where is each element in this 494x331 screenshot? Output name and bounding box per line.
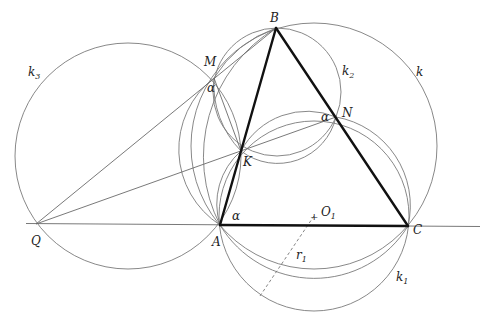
circle-k3 xyxy=(15,43,241,269)
label-B: B xyxy=(269,11,279,25)
side-BC xyxy=(276,28,408,226)
circle-k2 xyxy=(213,28,341,156)
label-M: M xyxy=(203,55,217,69)
arc-A-C xyxy=(220,225,408,278)
geometry-diagram: + B M N K A C Q k3 k2 k k1 O1 r1 α α α xyxy=(0,0,494,331)
label-A: A xyxy=(211,235,221,249)
label-alpha-A: α xyxy=(232,209,240,223)
label-k1: k1 xyxy=(396,270,408,286)
label-k3: k3 xyxy=(28,65,40,81)
label-alpha-M: α xyxy=(207,81,215,95)
label-Q: Q xyxy=(31,234,41,248)
label-r1: r1 xyxy=(296,248,307,264)
label-k: k xyxy=(416,65,423,79)
line-MK xyxy=(214,78,241,151)
label-k2: k2 xyxy=(342,64,354,80)
label-K: K xyxy=(242,155,253,169)
label-alpha-N: α xyxy=(321,110,329,124)
line-QN xyxy=(36,117,336,224)
label-O1: O1 xyxy=(321,205,336,221)
label-C: C xyxy=(413,223,422,237)
side-AC xyxy=(220,225,408,226)
label-N: N xyxy=(341,106,353,120)
center-marker: + xyxy=(310,211,318,222)
